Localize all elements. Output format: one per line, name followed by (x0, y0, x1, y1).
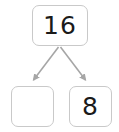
part-box-left[interactable] (11, 86, 54, 127)
part-box-right[interactable]: 8 (69, 86, 112, 127)
whole-box[interactable]: 16 (32, 5, 88, 46)
arrow-to-left-part (34, 47, 59, 80)
arrow-to-right-part (61, 47, 86, 80)
whole-value: 16 (43, 13, 77, 38)
part-right-value: 8 (82, 94, 99, 119)
number-bond-diagram: 16 8 (0, 0, 119, 132)
